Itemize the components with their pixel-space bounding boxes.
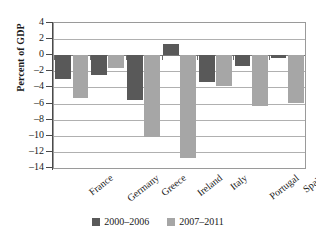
x-axis-label-ireland: Ireland: [195, 172, 224, 198]
y-axis-tick-label: 2: [39, 33, 44, 43]
bar: [216, 55, 232, 86]
y-axis-tick-label: –10: [29, 130, 44, 140]
y-axis-tick-label: –14: [29, 162, 44, 172]
bar: [91, 55, 107, 75]
bar-group: [54, 23, 90, 168]
bar: [180, 55, 196, 157]
bar-group: [126, 23, 162, 168]
legend-label-series-1: 2000–2006: [104, 216, 149, 227]
x-axis-label-spain: Spain: [301, 172, 316, 195]
bar: [235, 55, 251, 66]
bar: [288, 55, 304, 103]
y-axis-tick-label: –6: [34, 98, 44, 108]
bar: [55, 55, 71, 79]
category-tick-mark: [233, 55, 234, 60]
category-tick-mark: [90, 55, 91, 60]
bar-group: [233, 23, 269, 168]
bar-group: [162, 23, 198, 168]
x-axis-category-labels: FranceGermanyGreeceIrelandItalyPortugalS…: [53, 170, 306, 214]
bar: [127, 55, 143, 99]
bar-group: [197, 23, 233, 168]
bar: [199, 55, 215, 82]
bar-chart: Percent of GDP 420–2–4–6–8–10–12–14 Fran…: [0, 0, 316, 238]
legend-item: 2007–2011: [167, 216, 224, 227]
y-axis-tick-label: –8: [34, 114, 44, 124]
bar: [73, 55, 89, 98]
y-axis-tick-label: –4: [34, 81, 44, 91]
category-tick-mark: [162, 55, 163, 60]
x-axis-label-italy: Italy: [228, 172, 249, 192]
category-tick-mark: [54, 55, 55, 60]
x-axis-label-greece: Greece: [159, 172, 188, 198]
x-axis-label-france: France: [87, 172, 115, 197]
y-axis-tick-label: 4: [39, 17, 44, 27]
bar-group: [269, 23, 305, 168]
bar-group: [90, 23, 126, 168]
bar-groups: [54, 23, 305, 168]
legend-item: 2000–2006: [92, 216, 149, 227]
y-axis-tick-label: –2: [34, 65, 44, 75]
chart-legend: 2000–2006 2007–2011: [0, 216, 316, 227]
bar: [108, 55, 124, 68]
x-axis-label-portugal: Portugal: [267, 172, 300, 202]
plot-area: [53, 22, 306, 169]
x-axis-label-germany: Germany: [125, 172, 161, 204]
category-tick-mark: [126, 55, 127, 60]
legend-swatch-series-2-icon: [167, 218, 175, 226]
y-axis-tick-labels: 420–2–4–6–8–10–12–14: [0, 22, 53, 169]
bar: [271, 55, 287, 58]
legend-label-series-2: 2007–2011: [179, 216, 224, 227]
category-tick-mark: [197, 55, 198, 60]
bar: [144, 55, 160, 136]
bar: [252, 55, 268, 106]
y-axis-tick-label: –12: [29, 146, 44, 156]
legend-swatch-series-1-icon: [92, 218, 100, 226]
y-axis-tick-label: 0: [39, 49, 44, 59]
category-tick-mark: [269, 55, 270, 60]
bar: [163, 44, 179, 55]
